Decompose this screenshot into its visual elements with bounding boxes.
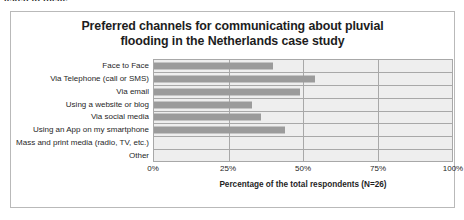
chart-title-line-2: flooding in the Netherlands case study bbox=[11, 34, 454, 49]
bar-row bbox=[154, 73, 452, 86]
category-label: Via social media bbox=[11, 111, 153, 124]
category-axis-labels: Face to FaceVia Telephone (call or SMS)V… bbox=[11, 59, 153, 162]
category-label: Via email bbox=[11, 85, 153, 98]
bar-row bbox=[154, 112, 452, 125]
x-tick-label: 25% bbox=[220, 164, 236, 173]
category-label: Via Telephone (call or SMS) bbox=[11, 72, 153, 85]
bar bbox=[154, 88, 300, 95]
category-label: Mass and print media (radio, TV, etc.) bbox=[11, 136, 153, 149]
category-label: Other bbox=[11, 149, 153, 162]
x-tick-label: 50% bbox=[295, 164, 311, 173]
category-label: Using an App on my smartphone bbox=[11, 123, 153, 136]
category-label: Face to Face bbox=[11, 59, 153, 72]
x-tick-label: 0% bbox=[147, 164, 159, 173]
plot-area bbox=[153, 59, 453, 162]
bar bbox=[154, 75, 315, 82]
chart-title: Preferred channels for communicating abo… bbox=[11, 19, 454, 49]
bar bbox=[154, 62, 273, 69]
bar bbox=[154, 127, 285, 134]
bar-row bbox=[154, 99, 452, 112]
chart-title-line-1: Preferred channels for communicating abo… bbox=[11, 19, 454, 34]
bar-row bbox=[154, 60, 452, 73]
clipped-page-text: listen to them. bbox=[4, 0, 68, 1]
chart-frame: Preferred channels for communicating abo… bbox=[10, 11, 455, 208]
x-tick-label: 75% bbox=[370, 164, 386, 173]
x-axis-title: Percentage of the total respondents (N=2… bbox=[153, 180, 453, 189]
x-tick-label: 100% bbox=[443, 164, 463, 173]
category-label: Using a website or blog bbox=[11, 98, 153, 111]
x-axis-tick-labels: 0%25%50%75%100% bbox=[153, 164, 453, 176]
bar-row bbox=[154, 137, 452, 150]
bar bbox=[154, 101, 252, 108]
bar-row bbox=[154, 86, 452, 99]
bar bbox=[154, 114, 261, 121]
bar-row bbox=[154, 124, 452, 137]
bar-row bbox=[154, 150, 452, 163]
